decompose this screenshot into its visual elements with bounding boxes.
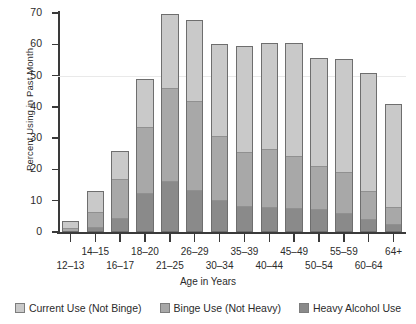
- y-tick-10: [52, 200, 58, 201]
- x-tick-21–25: [169, 234, 171, 242]
- segment-heavy-use-18–20: [137, 193, 153, 231]
- segment-heavy-use-14–15: [88, 227, 104, 231]
- segment-binge-use-26–29: [187, 101, 203, 191]
- x-tick-18–20: [144, 234, 146, 242]
- x-tick-label-18–20: 18–20: [122, 247, 168, 257]
- bar-45–49: [285, 43, 303, 232]
- segment-binge-use-35–39: [237, 152, 253, 206]
- segment-heavy-use-60–64: [361, 219, 377, 231]
- segment-current-use-64+: [386, 105, 402, 207]
- x-tick-14–15: [95, 234, 97, 242]
- bar-26–29: [186, 20, 204, 232]
- y-tick-label-30: 30: [2, 132, 42, 143]
- x-axis-title: Age in Years: [0, 276, 416, 287]
- bar-50–54: [310, 58, 328, 232]
- segment-heavy-use-64+: [386, 224, 402, 231]
- x-tick-60–64: [368, 234, 370, 242]
- legend-label-0: Current Use (Not Binge): [29, 302, 142, 314]
- segment-binge-use-45–49: [286, 156, 302, 208]
- segment-binge-use-12–13: [63, 228, 79, 231]
- y-tick-20: [52, 169, 58, 170]
- legend-label-1: Binge Use (Not Heavy): [174, 302, 281, 314]
- x-tick-30–34: [219, 234, 221, 242]
- segment-current-use-16–17: [112, 152, 128, 180]
- segment-current-use-21–25: [162, 15, 178, 88]
- segment-current-use-50–54: [311, 59, 327, 166]
- plot-area: 010203040506070: [58, 13, 406, 232]
- y-tick-label-60: 60: [2, 38, 42, 49]
- x-tick-40–44: [269, 234, 271, 242]
- y-tick-label-50: 50: [2, 70, 42, 81]
- y-tick-70: [52, 12, 58, 13]
- y-tick-label-10: 10: [2, 195, 42, 206]
- segment-heavy-use-26–29: [187, 190, 203, 231]
- gridline-50: [58, 76, 406, 77]
- x-tick-label-60–64: 60–64: [346, 261, 392, 271]
- bar-12–13: [62, 221, 80, 232]
- segment-current-use-30–34: [212, 45, 228, 135]
- segment-heavy-use-21–25: [162, 181, 178, 231]
- alcohol-use-by-age-chart: Percent Using in Past Month 010203040506…: [0, 0, 416, 324]
- segment-heavy-use-40–44: [262, 207, 278, 231]
- segment-heavy-use-55–59: [336, 213, 352, 231]
- legend-item-2[interactable]: Heavy Alcohol Use: [299, 302, 401, 314]
- x-tick-label-45–49: 45–49: [271, 247, 317, 257]
- x-tick-16–17: [119, 234, 121, 242]
- y-axis-line: [58, 11, 60, 234]
- segment-heavy-use-30–34: [212, 200, 228, 231]
- segment-current-use-45–49: [286, 44, 302, 155]
- x-tick-label-64+: 64+: [371, 247, 416, 257]
- y-tick-label-70: 70: [2, 7, 42, 18]
- legend-item-1[interactable]: Binge Use (Not Heavy): [160, 302, 281, 314]
- segment-binge-use-16–17: [112, 179, 128, 217]
- x-axis-line: [57, 232, 406, 234]
- legend-item-0[interactable]: Current Use (Not Binge): [15, 302, 142, 314]
- segment-binge-use-40–44: [262, 149, 278, 207]
- legend-swatch-icon-1: [160, 303, 170, 313]
- segment-current-use-35–39: [237, 47, 253, 152]
- segment-binge-use-30–34: [212, 136, 228, 200]
- segment-current-use-26–29: [187, 21, 203, 100]
- bar-40–44: [261, 43, 279, 232]
- segment-current-use-55–59: [336, 60, 352, 172]
- segment-binge-use-55–59: [336, 172, 352, 213]
- bar-35–39: [236, 46, 254, 232]
- x-tick-label-55–59: 55–59: [321, 247, 367, 257]
- x-tick-label-30–34: 30–34: [197, 261, 243, 271]
- segment-heavy-use-45–49: [286, 208, 302, 231]
- segment-heavy-use-16–17: [112, 218, 128, 231]
- segment-binge-use-50–54: [311, 166, 327, 209]
- x-tick-55–59: [343, 234, 345, 242]
- segment-binge-use-64+: [386, 207, 402, 224]
- y-tick-label-20: 20: [2, 163, 42, 174]
- bar-21–25: [161, 14, 179, 232]
- bar-18–20: [136, 79, 154, 232]
- bar-55–59: [335, 59, 353, 232]
- bar-30–34: [211, 44, 229, 232]
- chart-legend: Current Use (Not Binge)Binge Use (Not He…: [0, 302, 416, 314]
- bar-64+: [385, 104, 403, 232]
- x-tick-label-35–39: 35–39: [221, 247, 267, 257]
- legend-label-2: Heavy Alcohol Use: [313, 302, 401, 314]
- segment-current-use-40–44: [262, 44, 278, 149]
- segment-binge-use-21–25: [162, 88, 178, 182]
- legend-swatch-icon-0: [15, 303, 25, 313]
- x-tick-label-14–15: 14–15: [72, 247, 118, 257]
- y-tick-0: [52, 231, 58, 232]
- y-tick-50: [52, 75, 58, 76]
- x-tick-label-16–17: 16–17: [97, 261, 143, 271]
- bar-16–17: [111, 151, 129, 232]
- x-tick-45–49: [293, 234, 295, 242]
- bar-14–15: [87, 191, 105, 232]
- segment-binge-use-60–64: [361, 191, 377, 219]
- y-tick-label-0: 0: [2, 226, 42, 237]
- x-tick-64+: [393, 234, 395, 242]
- x-tick-label-50–54: 50–54: [296, 261, 342, 271]
- y-tick-40: [52, 106, 58, 107]
- x-tick-label-12–13: 12–13: [47, 261, 93, 271]
- x-tick-26–29: [194, 234, 196, 242]
- segment-current-use-18–20: [137, 80, 153, 127]
- y-tick-30: [52, 137, 58, 138]
- segment-current-use-14–15: [88, 192, 104, 211]
- segment-heavy-use-35–39: [237, 206, 253, 231]
